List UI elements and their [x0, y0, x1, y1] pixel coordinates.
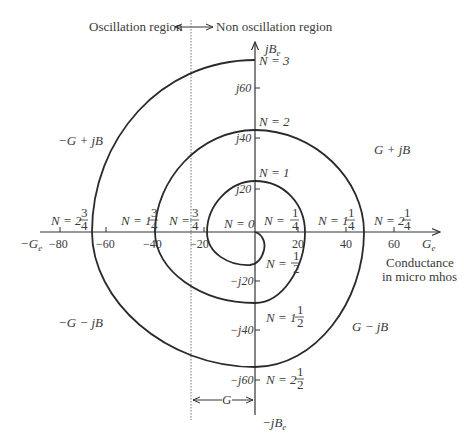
quadrant-g-plus-jb: G + jB	[374, 142, 410, 157]
x-tick-60: 60	[388, 237, 400, 251]
svg-text:N =: N =	[168, 213, 190, 228]
label-n-quarter: N = 1 4	[263, 205, 299, 233]
label-n-three-quarter: N = 3 4	[168, 205, 199, 233]
svg-text:N = 2: N = 2	[50, 213, 82, 228]
label-n-half: N = 1 2	[265, 248, 300, 276]
label-n2-quarter: N = 2 1 4	[373, 205, 411, 233]
label-n2: N = 2	[258, 114, 290, 129]
svg-text:N = 2: N = 2	[265, 372, 297, 387]
x-tick-minus40: −40	[143, 237, 162, 251]
x-tick-minus20: −20	[190, 237, 209, 251]
label-n3: N = 3	[258, 53, 290, 68]
svg-text:N = 1: N = 1	[120, 213, 151, 228]
label-n2-three-quarter: N = 2 3 4	[50, 205, 88, 233]
svg-text:N =: N =	[263, 213, 285, 228]
svg-text:2: 2	[297, 315, 304, 330]
svg-text:4: 4	[292, 218, 299, 233]
label-n1: N = 1	[258, 165, 289, 180]
y-tick-j40: j40	[234, 131, 251, 145]
quadrant-g-minus-jb: G − jB	[352, 319, 388, 334]
x-tick-40: 40	[340, 237, 352, 251]
conductance-label-line2: in micro mhos	[382, 269, 457, 284]
svg-text:N =: N =	[265, 256, 287, 271]
svg-text:4: 4	[81, 218, 88, 233]
label-n0: N = 0	[223, 216, 255, 231]
label-n1-quarter: N = 1 1 4	[317, 205, 355, 233]
admittance-spiral-diagram: Oscillation region Non oscillation regio…	[0, 0, 464, 442]
svg-text:4: 4	[192, 218, 199, 233]
y-tick-minus-j60: −j60	[230, 373, 253, 387]
svg-text:2: 2	[297, 377, 304, 392]
svg-text:4: 4	[151, 218, 158, 233]
svg-text:4: 4	[404, 218, 411, 233]
svg-text:N = 2: N = 2	[373, 213, 405, 228]
non-oscillation-region-label: Non oscillation region	[216, 19, 333, 34]
conductance-label-line1: Conductance	[386, 255, 454, 270]
x-tick-minus80: −80	[49, 237, 68, 251]
label-n1-half: N = 1 1 2	[265, 302, 304, 330]
ge-label: Ge	[422, 236, 435, 253]
svg-text:4: 4	[348, 218, 355, 233]
y-tick-j20: j20	[234, 182, 251, 196]
label-n1-three-quarter: N = 1 3 4	[120, 205, 158, 233]
quadrant-minus-g-plus-jb: −G + jB	[58, 133, 103, 148]
label-n2-half: N = 2 1 2	[265, 364, 304, 392]
oscillation-region-label: Oscillation region	[89, 19, 183, 34]
svg-text:N = 1: N = 1	[317, 213, 348, 228]
y-tick-j60: j60	[234, 81, 251, 95]
minus-jbe-label: −jBe	[262, 415, 286, 432]
svg-text:2: 2	[293, 261, 300, 276]
minus-ge-label: −Ge	[20, 236, 42, 253]
quadrant-minus-g-minus-jb: −G − jB	[58, 315, 103, 330]
y-tick-minus-j20: −j20	[230, 274, 253, 288]
x-tick-minus60: −60	[96, 237, 115, 251]
g-dimension-label: G	[222, 392, 232, 407]
svg-text:N = 1: N = 1	[265, 310, 296, 325]
y-tick-minus-j40: −j40	[230, 323, 253, 337]
